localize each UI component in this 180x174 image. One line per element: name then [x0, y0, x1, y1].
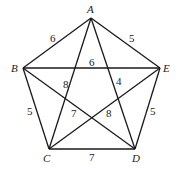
vertex-label-b: B: [11, 62, 18, 74]
edge-weight-ab: 6: [50, 32, 56, 44]
edge-ab: [23, 18, 91, 68]
edge-ed: [135, 68, 160, 149]
vertex-labels-group: ABCDE: [11, 3, 170, 164]
edge-weight-bc: 5: [27, 105, 33, 117]
edge-ae: [91, 18, 160, 68]
edge-weight-ed: 5: [150, 105, 156, 117]
graph-diagram: 6568478557 ABCDE: [0, 0, 180, 174]
edge-weight-ad: 4: [116, 75, 122, 87]
edge-weight-ce: 8: [106, 107, 112, 119]
vertex-label-c: C: [43, 152, 51, 164]
edge-weight-bd: 7: [71, 107, 77, 119]
edges-group: [23, 18, 160, 149]
vertex-label-e: E: [162, 62, 170, 74]
edge-weight-cd: 7: [89, 151, 95, 163]
vertex-label-d: D: [131, 152, 140, 164]
edge-weight-ac: 8: [63, 78, 69, 90]
edge-weight-be: 6: [89, 56, 95, 68]
edge-weight-ae: 5: [129, 32, 135, 44]
vertex-label-a: A: [86, 3, 94, 15]
